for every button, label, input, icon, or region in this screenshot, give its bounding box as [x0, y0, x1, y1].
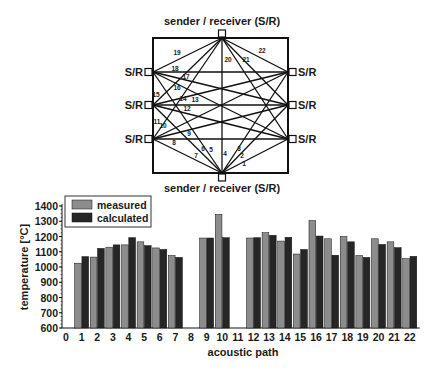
path-number-label: 2 [240, 152, 244, 159]
path-number-label: 11 [154, 118, 161, 125]
acoustic-path-line [222, 38, 288, 72]
bar-measured-path-20 [371, 239, 378, 328]
transducer-right [289, 136, 296, 143]
bar-calculated-path-5 [144, 246, 151, 328]
y-axis-label: temperature [°C] [18, 224, 30, 311]
path-number-label: 8 [172, 139, 176, 146]
y-tick-label: 1300 [35, 215, 59, 227]
y-tick-label: 800 [40, 292, 58, 304]
bar-measured-path-16 [309, 220, 316, 328]
x-tick-label: 20 [373, 331, 385, 343]
bar-calculated-path-20 [379, 244, 386, 328]
x-tick-label: 8 [188, 331, 194, 343]
x-tick-label: 17 [326, 331, 338, 343]
bar-calculated-path-16 [316, 236, 323, 328]
path-number-label: 3 [237, 145, 241, 152]
bar-calculated-path-10 [223, 238, 230, 328]
bar-measured-path-2 [90, 257, 97, 328]
bar-calculated-path-3 [113, 245, 120, 328]
y-tick-label: 1400 [35, 200, 59, 212]
legend-label-measured: measured [97, 199, 147, 211]
bar-measured-path-6 [153, 248, 160, 328]
path-number-label: 12 [183, 105, 191, 112]
x-tick-label: 13 [263, 331, 275, 343]
x-tick-label: 9 [204, 331, 210, 343]
x-tick-label: 18 [341, 331, 353, 343]
x-tick-label: 12 [248, 331, 260, 343]
path-number-label: 7 [194, 152, 198, 159]
bar-measured-path-17 [325, 239, 332, 328]
x-tick-label: 2 [94, 331, 100, 343]
x-tick-label: 11 [232, 331, 243, 343]
x-tick-label: 5 [141, 331, 147, 343]
acoustic-path-line [153, 139, 222, 173]
transducer-diagram: S/RS/RS/RS/RS/RS/Rsender / receiver (S/R… [125, 15, 317, 194]
bar-measured-path-3 [106, 247, 113, 328]
acoustic-path-line [222, 139, 288, 173]
x-tick-label: 19 [357, 331, 369, 343]
bar-measured-path-13 [262, 233, 269, 328]
bar-calculated-path-12 [254, 238, 261, 328]
transducer-label: S/R [125, 99, 143, 111]
bar-measured-path-9 [200, 238, 207, 328]
x-tick-label: 22 [404, 331, 416, 343]
transducer-label: S/R [298, 133, 316, 145]
x-tick-label: 4 [126, 331, 132, 343]
acoustic-path-line [153, 38, 222, 72]
bar-measured-path-1 [75, 263, 82, 328]
y-tick-label: 700 [40, 307, 58, 319]
path-number-label: 1 [242, 160, 246, 167]
transducer-label: S/R [298, 99, 316, 111]
transducer-top [219, 30, 226, 37]
bar-measured-path-15 [293, 254, 300, 328]
x-tick-label: 16 [310, 331, 322, 343]
transducer-label: S/R [125, 133, 143, 145]
legend-label-calculated: calculated [97, 212, 148, 224]
path-number-label: 16 [173, 84, 181, 91]
path-number-label: 13 [191, 96, 199, 103]
path-number-label: 4 [223, 150, 227, 157]
path-number-label: 17 [182, 73, 190, 80]
x-tick-label: 1 [79, 331, 85, 343]
bar-calculated-path-18 [348, 242, 355, 328]
bar-chart: 6007008009001000110012001300140001234567… [18, 196, 420, 358]
bar-measured-path-10 [215, 214, 222, 328]
bar-measured-path-19 [356, 256, 363, 328]
bar-measured-path-21 [387, 242, 394, 328]
bar-calculated-path-15 [301, 249, 308, 328]
bar-calculated-path-9 [207, 238, 214, 328]
bar-measured-path-12 [246, 238, 253, 328]
bar-calculated-path-13 [269, 235, 276, 328]
bar-calculated-path-6 [160, 249, 167, 328]
path-number-label: 21 [242, 56, 250, 63]
path-number-label: 15 [152, 91, 160, 98]
figure: S/RS/RS/RS/RS/RS/Rsender / receiver (S/R… [0, 0, 433, 374]
transducer-label: S/R [125, 66, 143, 78]
path-number-label: 14 [179, 95, 187, 102]
bar-calculated-path-22 [410, 256, 417, 328]
bar-calculated-path-19 [363, 257, 370, 328]
bar-measured-path-5 [137, 242, 144, 328]
transducer-left [145, 69, 152, 76]
bar-measured-path-7 [168, 256, 175, 328]
transducer-left [145, 136, 152, 143]
path-number-label: 10 [159, 122, 167, 129]
legend-swatch-calculated [72, 213, 92, 222]
path-number-label: 18 [171, 65, 179, 72]
bar-calculated-path-7 [176, 257, 183, 328]
path-number-label: 6 [201, 145, 205, 152]
x-tick-label: 3 [110, 331, 116, 343]
bar-calculated-path-4 [129, 238, 136, 328]
path-number-label: 5 [209, 146, 213, 153]
bar-calculated-path-21 [394, 248, 401, 328]
transducer-right [289, 102, 296, 109]
transducer-left [145, 102, 152, 109]
bar-measured-path-14 [278, 241, 285, 328]
bar-calculated-path-17 [332, 255, 339, 328]
y-tick-label: 600 [40, 322, 58, 334]
bottom-transducer-label: sender / receiver (S/R) [164, 182, 281, 194]
x-tick-label: 15 [295, 331, 307, 343]
y-tick-label: 1100 [35, 246, 58, 258]
y-tick-label: 1200 [35, 231, 59, 243]
transducer-label: S/R [298, 66, 316, 78]
